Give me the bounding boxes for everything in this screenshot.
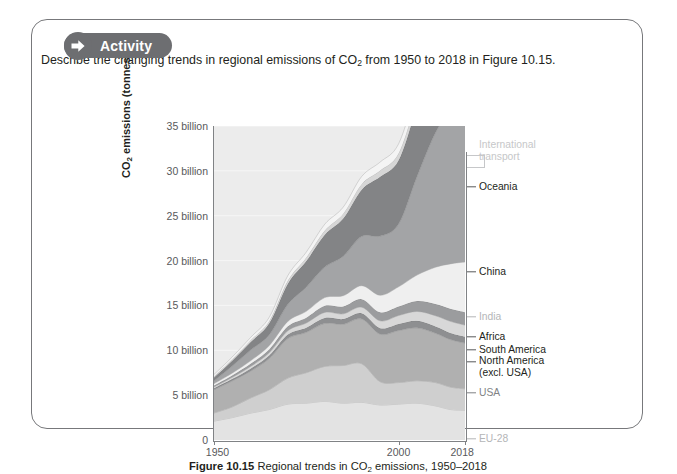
activity-header: Activity (64, 33, 172, 58)
legend-tick-oceania (467, 186, 476, 187)
figure-caption-number: Figure 10.15 (189, 460, 254, 472)
y-tick-label: 15 billion (167, 299, 208, 311)
figure-caption-text-1: Regional trends in CO (254, 460, 367, 472)
legend-tick-north-america-excl-usa (467, 361, 476, 362)
y-tick-label: 30 billion (167, 165, 208, 177)
prompt-subscript: 2 (357, 58, 362, 68)
legend-label-north-america-excl-usa: North America (excl. USA) (479, 355, 544, 379)
legend-tick-africa (467, 336, 476, 337)
activity-panel: Activity Describe the changing trends in… (31, 19, 643, 429)
legend-tick-eu-28 (467, 438, 476, 439)
x-tick-label: 2018 (451, 446, 474, 458)
y-axis-tick-labels: 05 billion10 billion15 billion20 billion… (140, 68, 208, 398)
legend-spine (466, 152, 467, 442)
figure-caption-text-2: emissions, 1950–2018 (372, 460, 487, 472)
y-tick-label: 25 billion (167, 210, 208, 222)
x-tick-label: 1950 (206, 446, 229, 458)
legend-tick-china (467, 271, 476, 272)
legend-tick-usa (467, 392, 476, 393)
activity-header-label: Activity (100, 39, 152, 53)
y-tick-label: 10 billion (167, 344, 208, 356)
legend-label-india: India (479, 311, 501, 323)
legend-tick-india (467, 316, 476, 317)
legend-label-africa: Africa (479, 331, 505, 343)
prompt-text-2: from 1950 to 2018 in Figure 10.15. (362, 53, 556, 67)
legend-label-usa: USA (479, 387, 500, 399)
y-tick-label: 35 billion (167, 120, 208, 132)
x-tick-mark (399, 441, 400, 445)
legend-label-oceania: Oceania (479, 181, 517, 193)
legend-label-eu-28: EU-28 (479, 433, 508, 445)
figure-10-15: CO2 emissions (tonnes) 05 billion10 bill… (32, 68, 644, 420)
figure-caption: Figure 10.15 Regional trends in CO2 emis… (32, 460, 644, 472)
figure-caption-subscript: 2 (367, 465, 371, 474)
y-axis-title-subscript: 2 (125, 157, 134, 161)
legend-label-china: China (479, 266, 506, 278)
x-tick-label: 2000 (387, 446, 410, 458)
x-axis-line (213, 441, 466, 442)
arrow-right-icon (64, 32, 92, 60)
legend-label-international-transport: International transport (479, 139, 536, 163)
y-tick-label: 20 billion (167, 255, 208, 267)
chart-plot-area (214, 126, 465, 440)
y-tick-label: 0 (202, 434, 208, 446)
y-tick-label: 5 billion (172, 389, 208, 401)
y-axis-line (213, 126, 214, 442)
legend-tick-south-america (467, 349, 476, 350)
x-tick-mark (214, 441, 215, 445)
y-axis-title: CO2 emissions (tonnes) (120, 54, 132, 178)
